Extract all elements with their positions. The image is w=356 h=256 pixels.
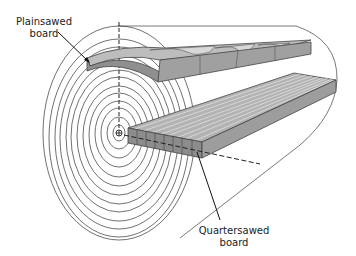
- plainsawed-label-line1: Plainsawed: [14, 16, 74, 28]
- quartersawed-label-line1: Quartersawed: [190, 225, 278, 237]
- pith-marker-icon: [116, 130, 122, 136]
- plainsawed-board: [87, 40, 311, 82]
- quartersawed-label-line2: board: [190, 237, 278, 249]
- plainsawed-label-line2: board: [14, 28, 74, 40]
- quartersawed-board-label: Quartersawed board: [190, 225, 278, 249]
- quartersawed-board: [128, 73, 336, 158]
- quartersawed-leader-line: [197, 152, 220, 220]
- plainsawed-board-label: Plainsawed board: [14, 16, 74, 40]
